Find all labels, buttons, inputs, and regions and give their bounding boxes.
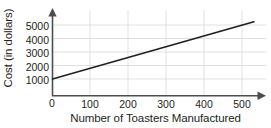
x-axis — [52, 92, 266, 100]
vertical-gridlines — [90, 10, 242, 96]
data-series-cost-line — [53, 22, 254, 79]
plot-area — [0, 0, 271, 128]
cost-vs-toasters-line-chart: Cost (in dollars) 5000 4000 3000 2000 10… — [0, 0, 271, 128]
